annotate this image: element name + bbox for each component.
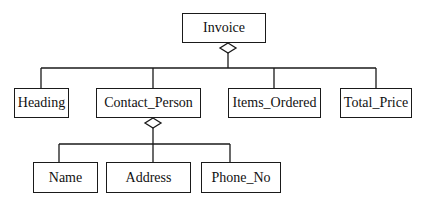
- node-label: Items_Ordered: [233, 95, 317, 111]
- node-label: Address: [126, 170, 172, 186]
- node-label: Name: [49, 170, 82, 186]
- node-label: Contact_Person: [104, 95, 193, 111]
- node-label: Total_Price: [344, 95, 408, 111]
- node-name: Name: [33, 162, 98, 193]
- node-label: Invoice: [203, 20, 245, 36]
- node-label: Phone_No: [211, 170, 270, 186]
- node-total-price: Total_Price: [340, 88, 412, 118]
- node-heading: Heading: [14, 88, 69, 118]
- node-invoice: Invoice: [182, 13, 266, 43]
- node-phone-no: Phone_No: [201, 162, 281, 193]
- aggregation-diamond-icon: [220, 43, 236, 53]
- node-address: Address: [106, 162, 191, 193]
- node-label: Heading: [18, 95, 65, 111]
- node-items-ordered: Items_Ordered: [228, 88, 321, 118]
- node-contact-person: Contact_Person: [96, 88, 201, 118]
- aggregation-diamond-icon: [145, 118, 161, 128]
